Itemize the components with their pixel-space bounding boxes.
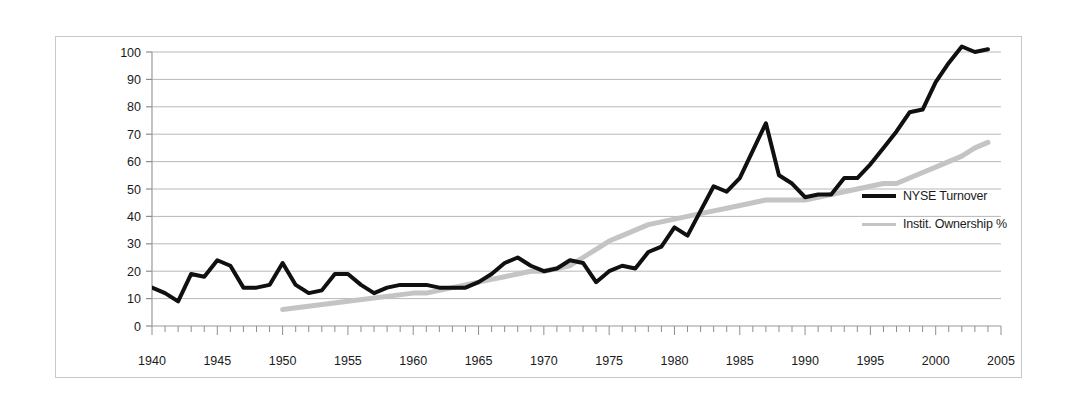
figure-root: 0102030405060708090100194019451950195519… xyxy=(0,0,1077,408)
legend-swatch-instit-ownership xyxy=(862,223,896,226)
x-tick-label: 1990 xyxy=(791,354,819,368)
x-tick-label: 2000 xyxy=(922,354,950,368)
y-tick-label: 30 xyxy=(127,237,141,251)
x-tick-label: 1980 xyxy=(661,354,689,368)
legend-item-instit-ownership: Instit. Ownership % xyxy=(862,210,1042,238)
x-tick-label: 1995 xyxy=(856,354,884,368)
y-tick-label: 50 xyxy=(127,183,141,197)
y-tick-label: 90 xyxy=(127,73,141,87)
x-tick-label: 1940 xyxy=(138,354,166,368)
x-tick-label: 1970 xyxy=(530,354,558,368)
legend-item-nyse-turnover: NYSE Turnover xyxy=(862,182,1042,210)
y-tick-label: 80 xyxy=(127,100,141,114)
y-tick-label: 10 xyxy=(127,292,141,306)
x-tick-label: 1945 xyxy=(203,354,231,368)
x-tick-label: 1960 xyxy=(399,354,427,368)
x-tick-label: 1950 xyxy=(269,354,297,368)
y-tick-label: 60 xyxy=(127,155,141,169)
x-tick-label: 2005 xyxy=(987,354,1015,368)
legend-label-instit-ownership: Instit. Ownership % xyxy=(903,217,1007,231)
legend-swatch-nyse-turnover xyxy=(862,194,896,198)
y-tick-label: 70 xyxy=(127,128,141,142)
legend-label-nyse-turnover: NYSE Turnover xyxy=(903,189,987,203)
x-tick-label: 1985 xyxy=(726,354,754,368)
x-tick-label: 1955 xyxy=(334,354,362,368)
y-tick-label: 100 xyxy=(120,46,141,60)
y-tick-label: 40 xyxy=(127,210,141,224)
x-tick-label: 1975 xyxy=(595,354,623,368)
x-tick-label: 1965 xyxy=(465,354,493,368)
y-tick-label: 0 xyxy=(134,320,141,334)
y-tick-label: 20 xyxy=(127,265,141,279)
chart-legend: NYSE Turnover Instit. Ownership % xyxy=(862,182,1042,238)
